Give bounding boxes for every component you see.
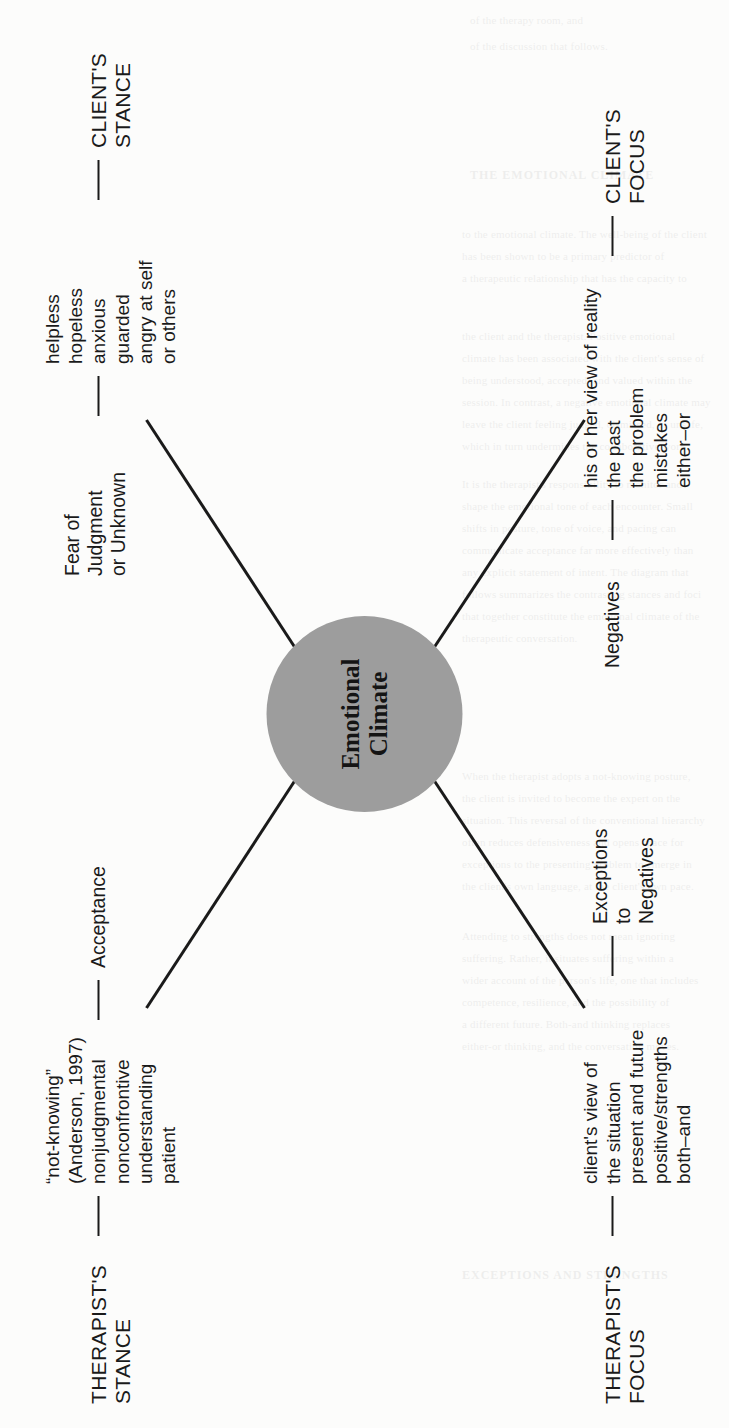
leaf-item: guarded <box>110 261 133 365</box>
leaf-item: patient <box>156 1037 179 1184</box>
heading-line: FOCUS <box>624 1265 648 1404</box>
spoke-line-therapists-focus <box>428 772 584 1008</box>
spoke-line-clients-stance <box>146 420 300 656</box>
leaf-item: either–or <box>671 288 694 488</box>
leaf-item: (Anderson, 1997) <box>63 1037 86 1184</box>
leaf-item: the past <box>601 288 624 488</box>
leaf-item: present and future <box>624 1030 647 1184</box>
leaf-item: nonjudgmental <box>86 1037 109 1184</box>
leaf-item: helpless <box>40 261 63 365</box>
mid-label-negatives: Negatives <box>600 581 623 668</box>
connector-dash-clients-focus-mid <box>611 500 613 540</box>
mid-label-line: Acceptance <box>86 866 109 968</box>
leaf-list-clients-focus: his or her view of reality the past the … <box>578 288 694 488</box>
heading-line: CLIENT'S <box>86 53 110 148</box>
mid-label-line: Exceptions <box>588 829 611 924</box>
spoke-line-clients-focus <box>428 420 584 656</box>
leaf-item: or others <box>156 261 179 365</box>
heading-line: THERAPIST'S <box>86 1265 110 1404</box>
connector-dash-therapists-stance-head <box>97 1196 99 1236</box>
leaf-item: nonconfrontive <box>110 1037 133 1184</box>
connector-dash-therapists-focus-head <box>611 1196 613 1236</box>
leaf-item: hopeless <box>63 261 86 365</box>
spoke-line-therapists-stance <box>146 772 300 1008</box>
leaf-list-therapists-focus: client's view of the situation present a… <box>578 1030 694 1184</box>
connector-dash-clients-stance-mid <box>97 376 99 416</box>
leaf-item: his or her view of reality <box>578 288 601 488</box>
leaf-item: client's view of <box>578 1030 601 1184</box>
leaf-item: angry at self <box>133 261 156 365</box>
heading-line: CLIENT'S <box>600 109 624 204</box>
mid-label-line: Negatives <box>634 829 657 924</box>
heading-clients-focus: CLIENT'S FOCUS <box>600 109 649 204</box>
leaf-item: understanding <box>133 1037 156 1184</box>
leaf-item: anxious <box>86 261 109 365</box>
heading-line: STANCE <box>110 53 134 148</box>
hub-label-line1: Emotional <box>336 658 364 769</box>
heading-line: THERAPIST'S <box>600 1265 624 1404</box>
mid-label-line: to <box>611 829 634 924</box>
leaf-item: the problem <box>624 288 647 488</box>
heading-clients-stance: CLIENT'S STANCE <box>86 53 135 148</box>
leaf-item: “not-knowing” <box>40 1037 63 1184</box>
mid-label-line: Judgment <box>83 472 106 576</box>
leaf-item: both–and <box>671 1030 694 1184</box>
leaf-item: mistakes <box>648 288 671 488</box>
mid-label-line: Negatives <box>600 581 623 668</box>
hub-emotional-climate: Emotional Climate <box>266 616 462 812</box>
mid-label-acceptance: Acceptance <box>86 866 109 968</box>
heading-line: FOCUS <box>624 109 648 204</box>
connector-dash-therapists-focus-mid <box>611 936 613 976</box>
hub-label-line2: Climate <box>364 672 392 757</box>
connector-dash-therapists-stance-mid <box>97 980 99 1020</box>
mid-label-line: Fear of <box>60 472 83 576</box>
scanned-page: of the therapy room, and of the discussi… <box>0 0 729 1428</box>
leaf-item: the situation <box>601 1030 624 1184</box>
emotional-climate-concept-map: Emotional Climate THERAPIST'S STANCE “no… <box>0 0 729 1428</box>
connector-dash-clients-focus-head <box>611 216 613 256</box>
heading-therapists-stance: THERAPIST'S STANCE <box>86 1265 135 1404</box>
connector-dash-clients-stance-head <box>97 160 99 200</box>
mid-label-exceptions-to-negatives: Exceptions to Negatives <box>588 829 657 924</box>
heading-line: STANCE <box>110 1265 134 1404</box>
mid-label-fear-of-judgment: Fear of Judgment or Unknown <box>60 472 129 576</box>
leaf-list-therapists-stance: “not-knowing” (Anderson, 1997) nonjudgme… <box>40 1037 179 1184</box>
leaf-item: positive/strengths <box>648 1030 671 1184</box>
mid-label-line: or Unknown <box>106 472 129 576</box>
heading-therapists-focus: THERAPIST'S FOCUS <box>600 1265 649 1404</box>
leaf-list-clients-stance: helpless hopeless anxious guarded angry … <box>40 261 179 365</box>
